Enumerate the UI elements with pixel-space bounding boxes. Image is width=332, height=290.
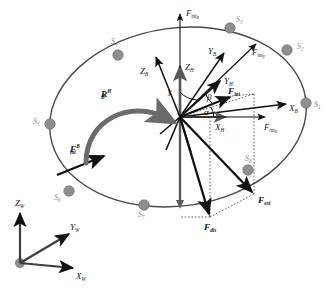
ring-node-labels: S1 S2 S3 S4 S5 S6 S7 S8 bbox=[33, 15, 321, 220]
label-rotation: RHB bbox=[100, 88, 112, 100]
label-z-world: ZW bbox=[15, 198, 25, 209]
label-x-world: XW bbox=[75, 271, 87, 282]
node-s5 bbox=[45, 119, 55, 129]
label-x-body: XB bbox=[288, 103, 299, 114]
label-f-int-y: Finty bbox=[251, 47, 266, 59]
node-s8 bbox=[243, 165, 253, 175]
node-label-s3: S3 bbox=[236, 15, 243, 25]
node-s3 bbox=[225, 23, 235, 33]
diagram-canvas: S1 S2 S3 S4 S5 S6 S7 S8 bbox=[0, 0, 332, 290]
label-z-body: ZB bbox=[140, 66, 149, 77]
label-f-int: Fint bbox=[227, 86, 240, 97]
force-vector-diagram: S1 S2 S3 S4 S5 S6 S7 S8 bbox=[0, 0, 332, 290]
hub-z-axis-group bbox=[176, 66, 184, 209]
label-y-world: YW bbox=[70, 222, 80, 233]
node-label-s6: S6 bbox=[54, 193, 61, 203]
node-s6 bbox=[64, 186, 74, 196]
alpha-arc bbox=[211, 107, 214, 117]
rotation-arrow bbox=[86, 111, 166, 163]
label-f-ext: Fext bbox=[257, 195, 271, 206]
ellipse-path bbox=[38, 11, 318, 223]
node-label-s4: S4 bbox=[111, 37, 118, 47]
node-label-s7: S7 bbox=[138, 210, 145, 220]
label-alpha: α bbox=[204, 107, 209, 117]
node-s4 bbox=[113, 50, 123, 60]
node-s2 bbox=[282, 45, 292, 55]
label-f-dis: Fdis bbox=[203, 222, 216, 233]
node-label-s1: S1 bbox=[314, 100, 321, 110]
node-label-s8: S8 bbox=[245, 154, 252, 164]
force-labels: Fint Fext Fdis FBint RHB bbox=[69, 86, 271, 233]
world-y-axis bbox=[20, 234, 69, 263]
world-x-axis bbox=[20, 263, 73, 268]
platform-ellipse bbox=[38, 11, 318, 223]
label-f-int-body: FBint bbox=[69, 143, 80, 155]
guide-bottom-diag bbox=[210, 194, 254, 217]
f-int-y-vector bbox=[180, 44, 256, 117]
label-f-int-x: Fintx bbox=[263, 122, 278, 134]
label-gamma: γ bbox=[168, 86, 172, 96]
hub-vertical-arrow-down bbox=[176, 200, 184, 209]
world-frame bbox=[15, 213, 73, 268]
label-z-hub: ZH bbox=[185, 62, 194, 73]
node-label-s5: S5 bbox=[33, 117, 40, 127]
ring-nodes bbox=[45, 23, 311, 210]
label-beta: β bbox=[206, 92, 212, 102]
label-x-hub: XH bbox=[214, 122, 225, 133]
label-y-body: YB bbox=[208, 46, 217, 57]
node-s1 bbox=[301, 98, 311, 108]
axis-labels: ZH YH XH ZB YB XB ZW YW XW bbox=[15, 46, 299, 282]
label-f-int-z: Fintz bbox=[185, 8, 199, 20]
node-s7 bbox=[139, 200, 149, 210]
node-label-s2: S2 bbox=[297, 42, 304, 52]
